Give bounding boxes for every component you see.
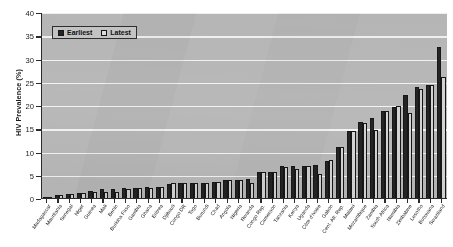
x-axis-label-cell: Namibia — [391, 203, 402, 247]
bar-group — [53, 13, 64, 198]
bar-latest — [149, 188, 153, 198]
bar-group — [323, 13, 334, 198]
bar-latest — [396, 106, 400, 198]
bar-group — [110, 13, 121, 198]
x-axis-label-cell: Nigeria — [233, 203, 244, 247]
y-axis-tick-label: 40 — [14, 9, 34, 18]
x-axis-label-cell: Swaziland — [436, 203, 447, 247]
bar-latest — [93, 192, 97, 198]
bar-latest — [385, 111, 389, 198]
legend-item-latest: Latest — [101, 29, 131, 36]
bar-latest — [205, 183, 209, 198]
bar-latest — [408, 113, 412, 198]
bar-groups — [42, 13, 447, 198]
bar-latest — [183, 183, 187, 198]
y-axis-tick-label: 25 — [14, 79, 34, 88]
bar-latest — [126, 189, 130, 198]
x-axis-label-cell: Kenya — [289, 203, 300, 247]
x-axis-label-cell: Cameroon — [267, 203, 278, 247]
y-axis-tick-label: 30 — [14, 56, 34, 65]
bar-latest — [351, 131, 355, 198]
bar-latest — [216, 182, 220, 198]
plot-area — [41, 13, 447, 199]
x-axis-label-cell: Eritrea — [154, 203, 165, 247]
x-axis-label-cell: Chad — [210, 203, 221, 247]
bar-latest — [340, 147, 344, 198]
y-axis-tick-label: 35 — [14, 32, 34, 41]
legend-swatch-earliest — [58, 30, 64, 36]
x-axis-label-cell: Mozambique — [357, 203, 368, 247]
bar-latest — [194, 183, 198, 198]
x-axis-category-labels: MadagascarMauritaniaSenegalNigerGuineaMa… — [41, 203, 447, 247]
x-axis-label-cell: Togo — [188, 203, 199, 247]
bar-group — [312, 13, 323, 198]
x-axis-label-cell: Lesotho — [413, 203, 424, 247]
bar-group — [76, 13, 87, 198]
bar-group — [200, 13, 211, 198]
bar-group — [278, 13, 289, 198]
x-axis-label-cell: Mali — [97, 203, 108, 247]
x-axis-label-cell: Angola — [222, 203, 233, 247]
x-axis-label-cell: Burkina Faso — [120, 203, 131, 247]
bar-group — [233, 13, 244, 198]
bar-latest — [239, 180, 243, 198]
bar-group — [380, 13, 391, 198]
bar-latest — [295, 169, 299, 198]
bar-latest — [284, 167, 288, 198]
bar-group — [177, 13, 188, 198]
bar-latest — [419, 89, 423, 198]
bar-latest — [441, 77, 445, 198]
x-axis-label-cell: Ghana — [143, 203, 154, 247]
x-axis-label-cell: Mauritania — [52, 203, 63, 247]
bar-group — [425, 13, 436, 198]
bar-latest — [171, 183, 175, 198]
bar-group — [155, 13, 166, 198]
bar-group — [391, 13, 402, 198]
bar-group — [357, 13, 368, 198]
x-axis-label-cell: Congo DR — [176, 203, 187, 247]
bar-latest — [306, 166, 310, 198]
bar-latest — [261, 172, 265, 198]
x-axis-label-cell: Niger — [75, 203, 86, 247]
bar-latest — [81, 193, 85, 198]
bar-group — [436, 13, 447, 198]
bar-group — [413, 13, 424, 198]
bar-latest — [104, 192, 108, 198]
bar-group — [211, 13, 222, 198]
y-axis-tick-label: 0 — [14, 195, 34, 204]
bar-group — [143, 13, 154, 198]
bar-latest — [318, 174, 322, 198]
x-axis-label-cell: Burundi — [199, 203, 210, 247]
bar-group — [121, 13, 132, 198]
bar-group — [245, 13, 256, 198]
bar-latest — [273, 172, 277, 198]
legend-label-earliest: Earliest — [67, 29, 92, 36]
bar-latest — [59, 195, 63, 198]
bar-group — [42, 13, 53, 198]
bar-group — [335, 13, 346, 198]
bar-group — [301, 13, 312, 198]
bar-group — [256, 13, 267, 198]
bar-latest — [48, 197, 52, 198]
bar-latest — [430, 85, 434, 198]
bar-group — [98, 13, 109, 198]
y-axis-tick-label: 15 — [14, 125, 34, 134]
bar-latest — [115, 192, 119, 198]
x-axis-label-cell: Senegal — [64, 203, 75, 247]
bar-latest — [363, 123, 367, 198]
y-axis-tick-label: 20 — [14, 102, 34, 111]
bar-latest — [250, 183, 254, 198]
bar-group — [267, 13, 278, 198]
y-axis-tick-label: 10 — [14, 149, 34, 158]
bar-group — [87, 13, 98, 198]
x-axis-label-cell: South Africa — [379, 203, 390, 247]
x-axis-label-cell: Tanzania — [278, 203, 289, 247]
bar-group — [368, 13, 379, 198]
x-axis-label-cell: Côte d'Ivoire — [312, 203, 323, 247]
bar-group — [222, 13, 233, 198]
x-axis-label-cell: Cent. Afr. Rep. — [334, 203, 345, 247]
chart-legend: Earliest Latest — [52, 26, 137, 39]
bar-group — [290, 13, 301, 198]
bar-group — [132, 13, 143, 198]
hiv-prevalence-bar-chart: HIV Prevalence (%) 0510152025303540 Mada… — [0, 0, 453, 247]
